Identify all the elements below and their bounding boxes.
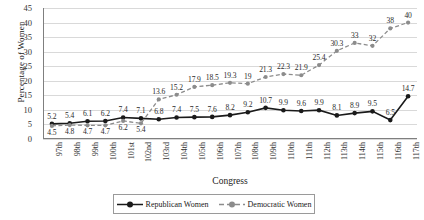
y-tick-label: 35 (2, 33, 32, 42)
data-point (174, 115, 179, 120)
x-tick-label: 98th (73, 142, 82, 156)
y-tick-label: 15 (2, 91, 32, 100)
data-label-democratic: 40 (404, 12, 411, 20)
data-point (156, 117, 161, 122)
data-label-republican: 7.1 (136, 107, 145, 115)
data-label-democratic: 13.6 (152, 88, 165, 96)
data-label-democratic: 25.4 (313, 54, 326, 62)
legend-marker-solid-icon (117, 200, 143, 209)
data-point (299, 73, 303, 77)
data-label-democratic: 32 (369, 35, 376, 43)
data-point (139, 116, 144, 121)
x-tick-label: 101st (127, 142, 136, 159)
data-point (281, 108, 286, 113)
data-label-republican: 9.9 (279, 99, 288, 107)
data-label-democratic: 4.8 (65, 128, 74, 136)
data-label-democratic: 30.3 (330, 40, 343, 48)
data-label-republican: 14.7 (402, 85, 415, 93)
data-point (210, 115, 215, 120)
data-label-republican: 10.7 (259, 97, 272, 105)
data-label-republican: 8.9 (350, 102, 359, 110)
data-point (103, 119, 108, 124)
data-point (335, 113, 340, 118)
x-tick-labels-group: 97th98th99th100th101st102nd103rd104th105… (43, 142, 417, 178)
data-label-republican: 6.5 (386, 109, 395, 117)
x-tick-label: 99th (91, 142, 100, 156)
x-tick-label: 102nd (144, 142, 153, 162)
x-tick-label: 103rd (162, 142, 171, 161)
data-point (281, 72, 285, 76)
data-point (317, 108, 322, 113)
data-label-republican: 6.8 (154, 108, 163, 116)
y-tick-label: 5 (2, 120, 32, 129)
data-label-republican: 6.1 (83, 110, 92, 118)
data-point (210, 83, 214, 87)
data-label-democratic: 33 (351, 32, 358, 40)
gridline (43, 139, 417, 140)
data-point (352, 111, 357, 116)
y-tick-label: 25 (2, 62, 32, 71)
x-tick-label: 108th (251, 142, 260, 160)
data-label-republican: 8.1 (332, 104, 341, 112)
x-tick-label: 97th (55, 142, 64, 156)
legend-item-democratic-women[interactable]: Democratic Women (219, 200, 312, 209)
y-tick-label: 30 (2, 48, 32, 57)
data-point (192, 85, 196, 89)
data-label-republican: 5.2 (47, 113, 56, 121)
data-label-democratic: 18.5 (206, 74, 219, 82)
data-point (353, 41, 357, 45)
x-tick-label: 105th (198, 142, 207, 160)
data-label-democratic: 19.3 (224, 72, 237, 80)
data-label-republican: 9.5 (368, 100, 377, 108)
y-tick-label: 20 (2, 77, 32, 86)
data-point (264, 75, 268, 79)
x-tick-label: 110th (287, 142, 296, 160)
x-tick-label: 117th (412, 142, 421, 160)
data-label-democratic: 21.9 (295, 64, 308, 72)
data-label-democratic: 21.3 (259, 66, 272, 74)
x-tick-label: 111th (305, 142, 314, 160)
x-tick-label: 113th (340, 142, 349, 160)
data-point (246, 82, 250, 86)
chart-legend: Republican Women Democratic Women (113, 194, 315, 214)
data-point (388, 118, 393, 123)
data-point (263, 106, 268, 111)
data-point (246, 110, 251, 115)
y-tick-label: 10 (2, 106, 32, 115)
y-tick-label: 40 (2, 19, 32, 28)
data-point (335, 49, 339, 53)
data-point (388, 26, 392, 30)
data-label-republican: 9.9 (314, 99, 323, 107)
line-chart: Percentage of Women 051015202530354045 5… (0, 0, 424, 220)
plot-area: 051015202530354045 5.25.46.16.27.47.16.8… (43, 8, 417, 139)
data-label-democratic: 4.5 (47, 129, 56, 137)
x-tick-label: 115th (376, 142, 385, 160)
data-label-democratic: 22.3 (277, 63, 290, 71)
data-point (157, 97, 161, 101)
data-point (85, 119, 90, 124)
x-tick-label: 109th (269, 142, 278, 160)
data-label-democratic: 38 (387, 17, 394, 25)
data-label-republican: 6.2 (101, 110, 110, 118)
x-axis-title: Congress (43, 176, 417, 186)
x-tick-label: 100th (109, 142, 118, 160)
data-label-democratic: 5.4 (136, 126, 145, 134)
data-label-republican: 7.6 (208, 106, 217, 114)
data-label-democratic: 17.9 (188, 76, 201, 84)
x-tick-label: 104th (180, 142, 189, 160)
data-point (228, 81, 232, 85)
data-label-republican: 7.5 (190, 106, 199, 114)
x-tick-label: 107th (234, 142, 243, 160)
x-tick-label: 116th (394, 142, 403, 160)
data-label-republican: 9.2 (243, 101, 252, 109)
legend-item-republican-women[interactable]: Republican Women (117, 200, 209, 209)
data-point (370, 44, 374, 48)
data-point (228, 113, 233, 118)
legend-marker-dashed-icon (219, 200, 245, 209)
data-point (299, 109, 304, 114)
data-label-republican: 9.6 (297, 100, 306, 108)
data-label-republican: 7.4 (119, 106, 128, 114)
y-tick-label: 0 (2, 135, 32, 144)
legend-label-democratic-women: Democratic Women (248, 200, 312, 209)
data-label-democratic: 4.7 (101, 128, 110, 136)
